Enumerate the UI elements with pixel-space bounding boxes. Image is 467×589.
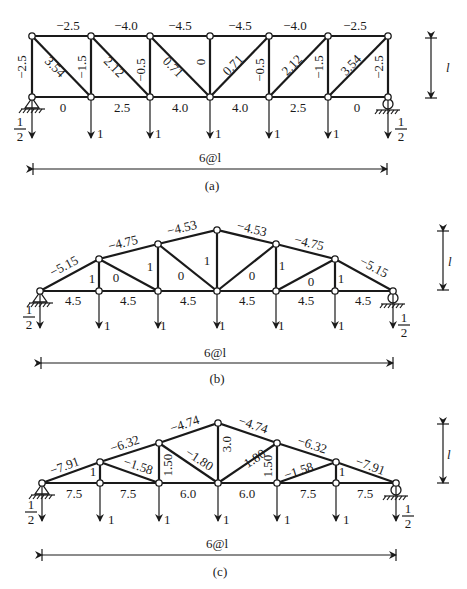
svg-text:2.12: 2.12 xyxy=(101,53,128,80)
span-dimension: 6@l xyxy=(33,150,387,175)
height-dimension: l xyxy=(425,38,450,98)
svg-text:7.5: 7.5 xyxy=(120,486,136,501)
svg-text:−4.0: −4.0 xyxy=(283,18,307,33)
svg-text:−2.5: −2.5 xyxy=(343,18,367,33)
svg-text:1: 1 xyxy=(155,126,162,141)
svg-text:−5.15: −5.15 xyxy=(357,253,391,280)
svg-text:l: l xyxy=(448,254,452,269)
svg-text:2: 2 xyxy=(17,129,24,144)
svg-text:0: 0 xyxy=(178,268,185,283)
svg-text:0.71: 0.71 xyxy=(160,53,187,80)
svg-text:2: 2 xyxy=(26,317,33,332)
svg-text:1: 1 xyxy=(284,512,291,527)
svg-text:2: 2 xyxy=(28,512,35,527)
svg-text:−6.32: −6.32 xyxy=(108,432,141,456)
svg-text:1: 1 xyxy=(204,253,211,268)
svg-text:1: 1 xyxy=(160,318,167,333)
reaction-right: 1 2 xyxy=(395,114,407,144)
svg-text:−2.5: −2.5 xyxy=(56,18,80,33)
load-labels: 1 1 1 1 1 xyxy=(108,512,350,527)
svg-text:7.5: 7.5 xyxy=(357,486,373,501)
span-dimension: 6@l xyxy=(42,536,396,561)
svg-text:−2.5: −2.5 xyxy=(14,55,29,79)
svg-text:2: 2 xyxy=(405,516,412,531)
svg-text:2.12: 2.12 xyxy=(278,51,305,78)
svg-text:1: 1 xyxy=(26,302,33,317)
svg-text:1: 1 xyxy=(401,310,408,325)
svg-text:1: 1 xyxy=(219,318,226,333)
load-labels: 1 1 1 1 1 xyxy=(104,318,345,333)
svg-text:6@l: 6@l xyxy=(204,345,226,360)
svg-text:−1.5: −1.5 xyxy=(311,55,326,79)
svg-text:1: 1 xyxy=(279,258,286,273)
svg-text:−4.74: −4.74 xyxy=(237,413,271,437)
svg-text:1: 1 xyxy=(104,318,111,333)
svg-text:1: 1 xyxy=(89,271,96,286)
svg-text:2: 2 xyxy=(398,129,405,144)
svg-text:4.5: 4.5 xyxy=(239,293,255,308)
svg-text:4.5: 4.5 xyxy=(180,293,196,308)
svg-text:6.0: 6.0 xyxy=(180,486,196,501)
svg-text:l: l xyxy=(446,60,450,75)
bottom-chord-forces: 7.5 7.5 6.0 6.0 7.5 7.5 xyxy=(66,486,373,501)
svg-text:−1.58: −1.58 xyxy=(122,454,155,478)
truss-figure: −2.5 −4.0 −4.5 −4.5 −4.0 −2.5 0 2.5 4.0 … xyxy=(0,0,467,589)
bottom-chord-forces: 4.5 4.5 4.5 4.5 4.5 4.5 xyxy=(65,293,371,308)
svg-text:1: 1 xyxy=(223,512,230,527)
svg-text:0: 0 xyxy=(60,100,67,115)
svg-text:0: 0 xyxy=(249,268,256,283)
svg-text:1: 1 xyxy=(338,271,345,286)
svg-text:4.0: 4.0 xyxy=(172,100,188,115)
svg-text:0: 0 xyxy=(113,270,120,285)
svg-text:−4.74: −4.74 xyxy=(168,412,202,436)
span-dimension: 6@l xyxy=(41,345,393,369)
svg-text:7.5: 7.5 xyxy=(66,486,82,501)
panel-caption: (a) xyxy=(205,178,219,193)
svg-text:2: 2 xyxy=(401,325,408,340)
reaction-left: 1 2 xyxy=(23,302,35,332)
svg-text:3.54: 3.54 xyxy=(42,53,69,80)
svg-text:−5.15: −5.15 xyxy=(47,252,81,279)
svg-text:0: 0 xyxy=(308,274,315,289)
svg-text:−0.5: −0.5 xyxy=(252,58,267,82)
svg-text:1: 1 xyxy=(108,512,115,527)
svg-text:6@l: 6@l xyxy=(199,150,221,165)
svg-text:6.0: 6.0 xyxy=(239,486,255,501)
svg-text:4.0: 4.0 xyxy=(232,100,248,115)
panel-b: −5.15 −4.75 −4.53 −4.53 −4.75 −5.15 4.5 … xyxy=(23,217,452,386)
svg-text:2.5: 2.5 xyxy=(114,100,130,115)
vertical-forces: −2.5 −1.5 −0.5 0 −0.5 −1.5 −2.5 xyxy=(14,55,386,82)
svg-text:−4.5: −4.5 xyxy=(228,18,252,33)
svg-text:1: 1 xyxy=(333,126,340,141)
svg-text:−4.0: −4.0 xyxy=(114,18,138,33)
svg-text:1: 1 xyxy=(343,512,350,527)
svg-text:1: 1 xyxy=(274,126,281,141)
svg-text:4.5: 4.5 xyxy=(120,293,136,308)
panel-caption: (b) xyxy=(209,371,224,386)
panel-a: −2.5 −4.0 −4.5 −4.5 −4.0 −2.5 0 2.5 4.0 … xyxy=(14,18,450,193)
reaction-left: 1 2 xyxy=(14,114,26,144)
panel-c: −7.91 −6.32 −4.74 −4.74 −6.32 −7.91 7.5 … xyxy=(25,412,451,579)
reaction-right: 1 2 xyxy=(398,310,410,340)
svg-text:0.71: 0.71 xyxy=(219,51,246,78)
svg-text:4.5: 4.5 xyxy=(65,293,81,308)
svg-text:1: 1 xyxy=(398,114,405,129)
svg-text:1: 1 xyxy=(215,126,222,141)
load-labels: 1 1 1 1 1 xyxy=(97,126,340,141)
svg-text:1: 1 xyxy=(90,464,97,479)
top-chord-forces: −2.5 −4.0 −4.5 −4.5 −4.0 −2.5 xyxy=(56,18,367,33)
panel-caption: (c) xyxy=(213,564,227,579)
svg-text:1.50: 1.50 xyxy=(160,454,175,477)
svg-text:−0.5: −0.5 xyxy=(133,58,148,82)
svg-text:0: 0 xyxy=(193,59,208,66)
svg-text:1: 1 xyxy=(28,497,35,512)
svg-text:2.5: 2.5 xyxy=(290,100,306,115)
svg-text:1: 1 xyxy=(339,464,346,479)
reaction-left: 1 2 xyxy=(25,497,37,527)
svg-text:−1.5: −1.5 xyxy=(74,55,89,79)
svg-text:1: 1 xyxy=(405,501,412,516)
svg-text:−4.5: −4.5 xyxy=(168,18,192,33)
svg-text:−6.32: −6.32 xyxy=(296,433,329,457)
svg-text:7.5: 7.5 xyxy=(300,486,316,501)
svg-text:4.5: 4.5 xyxy=(298,293,314,308)
